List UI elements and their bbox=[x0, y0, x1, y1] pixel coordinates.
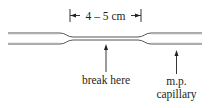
tube-bottom-wall bbox=[8, 40, 202, 44]
dimension-label: 4 – 5 cm bbox=[86, 10, 126, 22]
mp-label-line1: m.p. bbox=[166, 75, 187, 88]
dimension-right-arrowhead-icon bbox=[135, 14, 141, 18]
mp-label-line2: capillary bbox=[156, 88, 196, 101]
capillary-tube-diagram: 4 – 5 cm break here m.p. capillary bbox=[0, 0, 210, 108]
break-here-arrowhead-icon bbox=[104, 44, 108, 50]
mp-capillary-arrowhead-icon bbox=[175, 50, 179, 56]
capillary-tube bbox=[8, 33, 202, 44]
mp-capillary-pointer bbox=[175, 50, 179, 74]
tube-top-wall bbox=[8, 33, 202, 37]
break-here-label: break here bbox=[82, 74, 130, 86]
dimension-left-arrowhead-icon bbox=[71, 14, 77, 18]
break-here-pointer bbox=[104, 44, 108, 72]
